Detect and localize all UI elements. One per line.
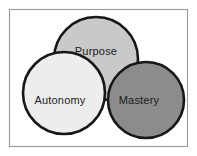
label-purpose: Purpose [75, 45, 117, 57]
venn-diagram-container: Purpose Mastery Autonomy [0, 0, 197, 156]
label-autonomy: Autonomy [34, 94, 85, 106]
venn-diagram-canvas: Purpose Mastery Autonomy [0, 0, 197, 156]
label-mastery: Mastery [119, 94, 160, 106]
